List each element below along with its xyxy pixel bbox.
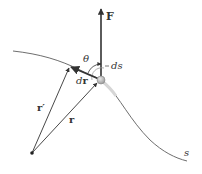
position-vector-r-arrow: [32, 83, 97, 153]
particle: [97, 76, 105, 84]
origin-point: [30, 151, 34, 155]
path-s-label: s: [184, 147, 189, 158]
displacement-dr-label: dr: [76, 75, 88, 86]
displacement-r: r: [82, 75, 88, 86]
position-r-prime-label: r′: [37, 102, 45, 113]
work-of-force-diagram: F θ ds dr r′ r s: [0, 0, 202, 174]
arc-length-ds-label: ds: [111, 60, 123, 71]
force-label: F: [106, 10, 114, 23]
angle-theta-label: θ: [83, 53, 89, 64]
position-r-label: r: [69, 114, 75, 125]
angle-theta-arc: [88, 64, 101, 73]
